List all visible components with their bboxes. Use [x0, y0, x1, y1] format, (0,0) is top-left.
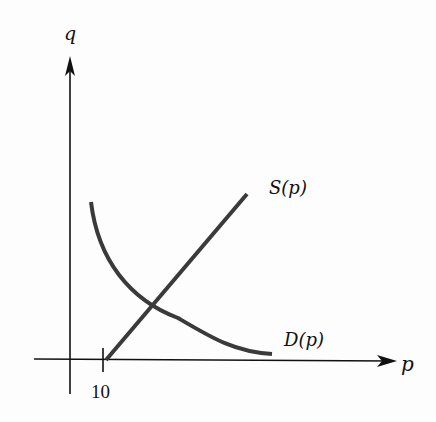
supply-demand-diagram — [0, 0, 436, 422]
demand-curve — [91, 202, 272, 354]
x-axis-label: p — [401, 354, 414, 374]
y-axis-label: q — [64, 24, 76, 43]
x-axis — [34, 359, 390, 361]
supply-curve — [106, 194, 247, 360]
demand-label: D(p) — [284, 331, 324, 349]
supply-label: S(p) — [269, 179, 307, 197]
tick-label-10: 10 — [91, 382, 110, 401]
